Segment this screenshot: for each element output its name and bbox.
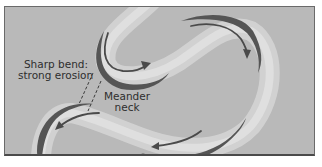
meander-neck-label-line2: neck xyxy=(97,102,157,113)
meander-neck-label: Meander neck xyxy=(97,91,157,113)
meander-diagram xyxy=(4,6,315,156)
sharp-bend-label-line2: strong erosion xyxy=(18,70,88,81)
diagram-frame: Sharp bend: strong erosion Meander neck xyxy=(4,6,315,156)
sharp-bend-label: Sharp bend: strong erosion xyxy=(18,59,88,81)
